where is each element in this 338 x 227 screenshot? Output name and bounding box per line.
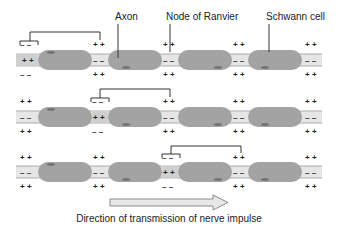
charge-outside: + + <box>93 153 105 162</box>
charge-inside: – – <box>93 168 105 177</box>
charge-inside: – – <box>233 168 245 177</box>
schwann-cell <box>108 50 162 70</box>
local-current-bracket <box>20 32 100 45</box>
charge-outside: – – <box>20 70 32 79</box>
charge-inside: – – <box>305 168 317 177</box>
charge-outside: + + <box>233 153 245 162</box>
local-current-bracket <box>162 146 241 158</box>
charge-inside: – – <box>233 56 245 65</box>
nucleus <box>214 66 222 68</box>
charge-inside: + + <box>93 113 105 122</box>
nucleus <box>261 178 269 180</box>
charge-outside: + + <box>163 40 175 49</box>
charge-outside: + + <box>233 127 245 136</box>
row-2: + + – – + + – – + + – – + + – – + + + + … <box>16 89 322 136</box>
row-1: – – + + – – + + – – + + + + – – + + + + … <box>16 32 322 79</box>
charge-outside: + + <box>93 182 105 191</box>
schwann-cell <box>108 162 162 182</box>
charge-outside: + + <box>305 97 317 106</box>
row-3: + + – – + + + + – – + + – – + + – – + + … <box>16 146 322 191</box>
nucleus <box>214 123 222 125</box>
charge-inside: – – <box>20 113 32 122</box>
charge-inside: – – <box>163 56 175 65</box>
charge-outside: – – <box>92 127 104 136</box>
schwann-cell <box>38 162 92 182</box>
charge-inside: – – <box>305 113 317 122</box>
schwann-cell-label: Schwann cell <box>266 11 325 22</box>
direction-arrow <box>110 195 228 210</box>
charge-outside: + + <box>20 153 32 162</box>
charge-inside: + + <box>163 168 175 177</box>
charge-inside: + + <box>22 56 34 65</box>
charge-outside: + + <box>305 127 317 136</box>
schwann-cell <box>178 50 232 70</box>
nucleus <box>261 123 269 125</box>
nucleus <box>122 178 130 180</box>
charge-inside: – – <box>20 168 32 177</box>
schwann-cell <box>108 107 162 127</box>
charge-outside: + + <box>93 40 105 49</box>
charge-outside: + + <box>163 70 175 79</box>
charge-outside: + + <box>163 127 175 136</box>
schwann-cell <box>178 162 232 182</box>
charge-outside: + + <box>305 70 317 79</box>
charge-outside: + + <box>20 97 32 106</box>
charge-outside: + + <box>305 182 317 191</box>
charge-inside: – – <box>163 113 175 122</box>
schwann-cell <box>248 50 302 70</box>
nucleus <box>261 66 269 68</box>
nucleus <box>122 66 130 68</box>
charge-outside: + + <box>305 153 317 162</box>
charge-outside: + + <box>93 70 105 79</box>
axon-label: Axon <box>115 11 138 22</box>
charge-inside: – – <box>93 56 105 65</box>
charge-inside: – – <box>233 113 245 122</box>
charge-outside: + + <box>233 40 245 49</box>
saltatory-conduction-diagram: – – + + – – + + – – + + + + – – + + + + … <box>0 0 338 227</box>
schwann-cell <box>38 107 92 127</box>
schwann-cell <box>248 162 302 182</box>
schwann-cell <box>248 107 302 127</box>
charge-outside: + + <box>305 40 317 49</box>
nucleus <box>214 178 222 180</box>
node-of-ranvier-label: Node of Ranvier <box>166 11 239 22</box>
schwann-cell <box>178 107 232 127</box>
nucleus <box>47 163 55 165</box>
charge-outside: – – <box>162 182 174 191</box>
nucleus <box>122 123 130 125</box>
charge-outside: + + <box>233 70 245 79</box>
direction-caption: Direction of transmission of nerve impul… <box>76 213 262 224</box>
nucleus <box>47 108 55 110</box>
charge-outside: + + <box>20 182 32 191</box>
charge-outside: + + <box>233 182 245 191</box>
charge-outside: + + <box>163 97 175 106</box>
nucleus <box>47 51 55 53</box>
charge-outside: + + <box>20 127 32 136</box>
charge-inside: – – <box>305 56 317 65</box>
charge-outside: + + <box>233 97 245 106</box>
schwann-cell <box>38 50 92 70</box>
